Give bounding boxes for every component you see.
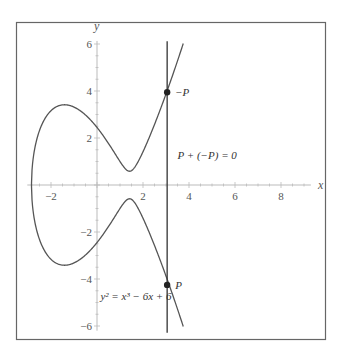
x-tick-label: −2 — [45, 190, 57, 202]
y-tick-label: −2 — [80, 226, 92, 238]
x-tick-label: 6 — [232, 190, 238, 202]
y-tick-label: 6 — [87, 38, 93, 50]
y-tick-label: −6 — [80, 320, 92, 332]
y-tick-label: 4 — [87, 85, 93, 97]
y-tick-label: 2 — [87, 132, 93, 144]
sum-annotation: P + (−P) = 0 — [177, 149, 238, 162]
point-p — [164, 282, 170, 288]
x-tick-label: 4 — [186, 190, 192, 202]
x-tick-label: 8 — [278, 190, 284, 202]
point-neg-p — [164, 89, 170, 95]
y-axis-label: y — [93, 19, 100, 33]
x-axis-label: x — [317, 178, 324, 192]
x-tick-label: 2 — [140, 190, 146, 202]
elliptic-curve-chart: −22468−6−4−2246 −PP P + (−P) = 0 y² = x³… — [0, 0, 344, 359]
y-tick-label: −4 — [80, 273, 92, 285]
point-label: P — [174, 279, 182, 291]
point-label: −P — [175, 86, 189, 98]
equation-label: y² = x³ − 6x + 6 — [99, 290, 172, 302]
